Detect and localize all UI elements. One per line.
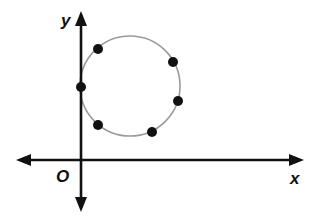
point-lower-left [93, 120, 103, 130]
x-axis-right-arrow-icon [289, 154, 304, 166]
point-on-y-axis [76, 82, 86, 92]
x-axis-label: x [289, 169, 301, 188]
points-group [76, 44, 183, 137]
y-axis-label: y [60, 11, 72, 30]
point-upper-right [168, 57, 178, 67]
origin-label: O [56, 167, 69, 186]
x-axis-left-arrow-icon [16, 154, 31, 166]
y-axis-up-arrow-icon [75, 11, 87, 26]
y-axis-down-arrow-icon [75, 197, 87, 212]
coordinate-plane-diagram: y O x [0, 0, 317, 217]
point-upper-left [93, 44, 103, 54]
point-lower-right [147, 127, 157, 137]
point-right [173, 96, 183, 106]
